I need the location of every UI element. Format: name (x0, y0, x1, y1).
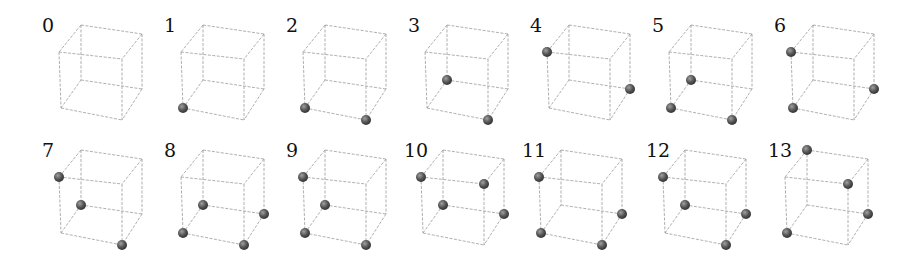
vertex-sphere-icon (442, 75, 452, 85)
cube-edge (59, 150, 81, 177)
cube-edge (685, 205, 746, 214)
vertex-sphere-icon (786, 47, 796, 57)
cube-edge (663, 177, 665, 233)
vertex-sphere-icon (686, 75, 696, 85)
cube-edge (791, 25, 813, 52)
cube-edge (244, 214, 264, 245)
vertex-sphere-icon (788, 103, 798, 113)
cube-diagram (652, 16, 776, 136)
cube-edge (203, 80, 264, 89)
cube-edge (663, 150, 685, 177)
cube-edge (303, 52, 305, 108)
cube-edge (443, 150, 504, 159)
cube-edge (303, 150, 325, 177)
cube-edge (181, 52, 183, 108)
cube-panel-3: 3 (408, 16, 532, 136)
cube-edge (665, 233, 726, 245)
cube-diagram (646, 141, 770, 259)
cube-edge (366, 214, 386, 245)
cube-edge (303, 177, 305, 233)
vertex-sphere-icon (680, 200, 690, 210)
cube-edge (203, 150, 264, 159)
cube-edge (244, 34, 264, 59)
cube-edge (181, 150, 203, 177)
cube-edge (325, 80, 386, 89)
cube-edge (539, 177, 602, 184)
vertex-sphere-icon (483, 115, 493, 125)
vertex-sphere-icon (782, 228, 792, 238)
cube-edge (425, 25, 447, 52)
cube-panel-6: 6 (774, 16, 898, 136)
vertex-sphere-icon (542, 47, 552, 57)
cube-edge (691, 25, 752, 34)
cube-edge (602, 159, 622, 184)
cube-edge (785, 150, 807, 177)
cube-edge (726, 214, 746, 245)
cube-edge (325, 150, 386, 159)
cube-edge (183, 80, 203, 108)
cube-edge (181, 52, 244, 59)
cube-edge (669, 52, 732, 59)
cube-edge (484, 214, 504, 245)
cube-edge (61, 80, 81, 108)
cube-edge (59, 25, 81, 52)
cube-edge (854, 89, 874, 120)
cube-edge (81, 205, 142, 214)
vertex-sphere-icon (863, 209, 873, 219)
vertex-sphere-icon (300, 228, 310, 238)
cube-edge (244, 159, 264, 184)
vertex-sphere-icon (178, 228, 188, 238)
cube-edge (423, 205, 443, 233)
vertex-sphere-icon (666, 103, 676, 113)
vertex-sphere-icon (617, 209, 627, 219)
cube-panel-7: 7 (42, 141, 166, 259)
cube-diagram (164, 141, 288, 259)
cube-edge (366, 34, 386, 59)
cube-edge (785, 177, 787, 233)
vertex-sphere-icon (117, 240, 127, 250)
cube-edge (669, 52, 671, 108)
cube-panel-8: 8 (164, 141, 288, 259)
cube-edge (421, 177, 484, 184)
cube-edge (854, 34, 874, 59)
vertex-sphere-icon (534, 172, 544, 182)
cube-edge (787, 233, 848, 245)
cube-edge (183, 108, 244, 120)
cube-edge (791, 52, 854, 59)
cube-edge (726, 159, 746, 184)
cube-edge (366, 159, 386, 184)
cube-edge (305, 80, 325, 108)
vertex-sphere-icon (741, 209, 751, 219)
cube-diagram (42, 141, 166, 259)
cube-edge (183, 205, 203, 233)
cube-panel-11: 11 (522, 141, 646, 259)
cube-edge (488, 89, 508, 120)
vertex-sphere-icon (625, 84, 635, 94)
cube-edge (59, 177, 61, 233)
vertex-sphere-icon (76, 200, 86, 210)
cube-edge (443, 205, 504, 214)
cube-edge (61, 233, 122, 245)
cube-edge (787, 205, 807, 233)
vertex-sphere-icon (499, 209, 509, 219)
cube-diagram (408, 16, 532, 136)
cube-edge (427, 108, 488, 120)
cube-edge (325, 205, 386, 214)
cube-edge (602, 214, 622, 245)
cube-panel-9: 9 (286, 141, 410, 259)
cube-edge (549, 80, 569, 108)
cube-edge (425, 52, 488, 59)
vertex-sphere-icon (298, 172, 308, 182)
cube-edge (181, 25, 203, 52)
vertex-sphere-icon (727, 115, 737, 125)
vertex-sphere-icon (536, 228, 546, 238)
cube-edge (671, 80, 691, 108)
vertex-sphere-icon (802, 145, 812, 155)
cube-panel-12: 12 (646, 141, 770, 259)
cube-edge (665, 205, 685, 233)
cube-edge (181, 177, 183, 233)
cube-diagram (522, 141, 646, 259)
cube-panel-5: 5 (652, 16, 776, 136)
cube-edge (807, 205, 868, 214)
cube-edge (303, 52, 366, 59)
